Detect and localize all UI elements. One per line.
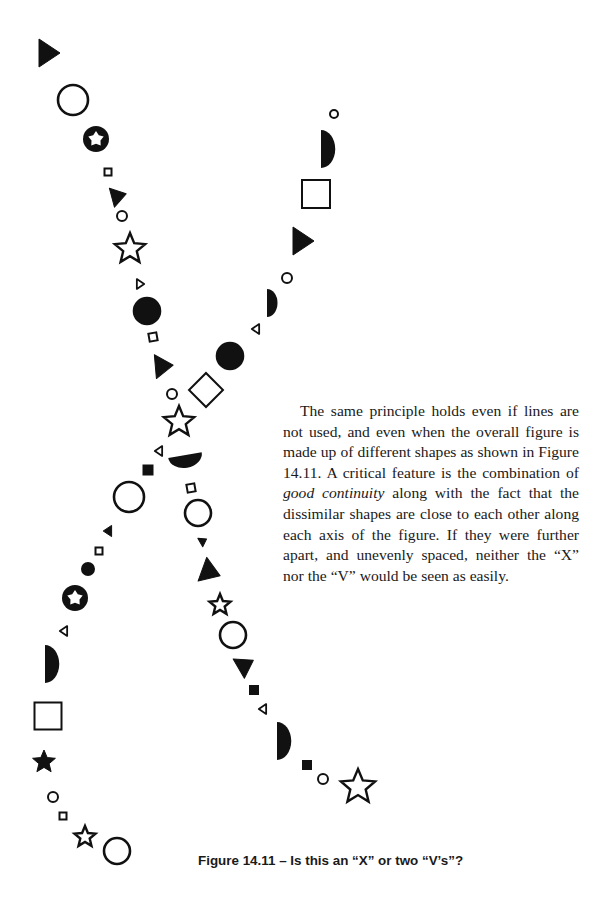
outline-star-shape [115,233,145,262]
outline-circle-shape [185,500,211,526]
filled-triangle-shape [103,525,111,536]
emphasis-good-continuity: good continuity [283,484,384,501]
outline-triangle-shape [137,279,144,289]
outline-star-shape [210,594,231,614]
filled-triangle-shape [198,535,209,547]
outline-circle-shape [104,838,130,864]
outline-circle-shape [220,622,246,648]
outline-square-shape [105,169,112,176]
outline-triangle-shape [252,324,259,334]
filled-triangle-shape [293,227,314,255]
filled-square-shape [250,686,258,694]
filled-triangle-shape [109,184,128,207]
outline-circle-shape [167,389,177,399]
filled-circle-shape [134,298,160,324]
filled-square-shape [144,466,153,475]
outline-square-shape [186,483,195,492]
outline-circle-shape [114,482,144,512]
outline-circle-shape [330,110,338,118]
body-paragraph: The same principle holds even if lines a… [283,401,579,586]
outline-square-shape [189,373,223,407]
half-circle-shape [267,289,278,317]
outline-square-shape [302,180,330,208]
half-circle-shape [321,130,335,168]
outline-square-shape [96,548,103,555]
filled-square-shape [303,761,311,769]
paragraph-part-1: The same principle holds even if lines a… [283,402,579,481]
outline-square-shape [35,703,62,730]
filled-circle-shape [217,343,243,369]
half-circle-shape [277,722,291,760]
outline-triangle-shape [155,446,162,456]
filled-triangle-shape [198,557,224,587]
outline-circle-shape [58,85,88,115]
outline-star-shape [341,769,375,802]
outline-triangle-shape [60,626,67,636]
star-in-circle-shape [62,585,88,611]
outline-triangle-shape [259,704,266,714]
outline-star-shape [75,826,96,846]
filled-star-shape [33,750,56,772]
filled-triangle-shape [154,353,174,378]
outline-square-shape [60,813,67,820]
outline-circle-shape [117,211,127,221]
outline-circle-shape [282,273,292,283]
outline-square-shape [148,332,157,341]
half-circle-shape [168,452,204,470]
figure-caption: Figure 14.11 – Is this an “X” or two “V’… [198,853,463,868]
outline-star-shape [164,406,194,435]
outline-circle-shape [318,774,328,784]
filled-triangle-shape [233,651,259,679]
half-circle-shape [45,645,59,683]
star-in-circle-shape [83,126,109,152]
filled-triangle-shape [39,39,60,67]
filled-circle-shape [82,563,94,575]
outline-circle-shape [48,792,58,802]
